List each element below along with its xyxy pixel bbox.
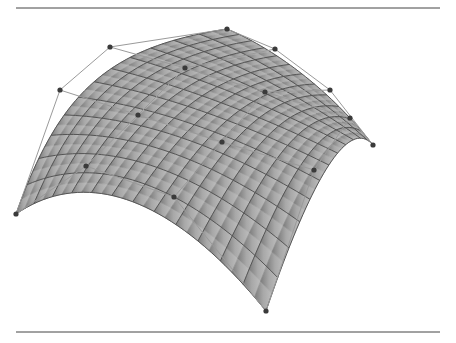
control-point [83, 163, 88, 168]
control-point [327, 87, 332, 92]
control-point [107, 44, 112, 49]
control-point [347, 115, 352, 120]
control-point [311, 167, 316, 172]
control-point [182, 65, 187, 70]
bezier-surface-figure [0, 0, 456, 343]
control-point [272, 46, 277, 51]
control-point [263, 308, 268, 313]
control-point [57, 87, 62, 92]
control-point [262, 89, 267, 94]
control-point [171, 194, 176, 199]
control-point [135, 112, 140, 117]
control-point [370, 142, 375, 147]
control-point [13, 211, 18, 216]
control-point [219, 139, 224, 144]
control-point [224, 26, 229, 31]
